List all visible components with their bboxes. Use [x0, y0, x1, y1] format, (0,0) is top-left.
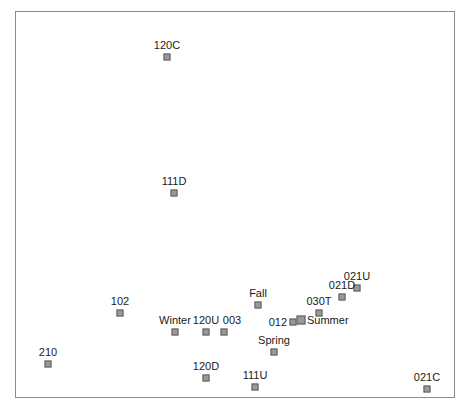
plot-area: 120C111D021U021D030TFall102Winter120U003…	[15, 11, 455, 398]
point-marker[interactable]	[290, 319, 297, 326]
point-marker[interactable]	[117, 310, 124, 317]
point-label: 021C	[414, 372, 440, 383]
point-marker[interactable]	[221, 329, 228, 336]
point-label: 120D	[193, 361, 219, 372]
point-label: 003	[223, 315, 241, 326]
point-marker[interactable]	[297, 316, 306, 325]
point-marker[interactable]	[203, 329, 210, 336]
scatter-plot-figure: 120C111D021U021D030TFall102Winter120U003…	[0, 0, 468, 414]
point-label: 210	[39, 347, 57, 358]
point-marker[interactable]	[271, 349, 278, 356]
point-marker[interactable]	[172, 329, 179, 336]
point-label: Winter	[159, 315, 191, 326]
point-label: 021D	[329, 280, 355, 291]
point-label: 111D	[162, 176, 187, 187]
point-label: 030T	[306, 296, 331, 307]
point-label: Spring	[258, 335, 290, 346]
point-label: 012	[269, 317, 287, 328]
point-marker[interactable]	[203, 375, 210, 382]
point-marker[interactable]	[45, 361, 52, 368]
point-label: Summer	[307, 315, 349, 326]
point-label: Fall	[249, 288, 267, 299]
point-label: 120U	[193, 315, 219, 326]
point-marker[interactable]	[164, 54, 171, 61]
point-marker[interactable]	[171, 190, 178, 197]
point-label: 102	[111, 296, 129, 307]
point-marker[interactable]	[252, 384, 259, 391]
point-label: 120C	[154, 40, 180, 51]
point-marker[interactable]	[255, 302, 262, 309]
point-marker[interactable]	[424, 386, 431, 393]
point-label: 111U	[243, 370, 268, 381]
point-marker[interactable]	[339, 294, 346, 301]
